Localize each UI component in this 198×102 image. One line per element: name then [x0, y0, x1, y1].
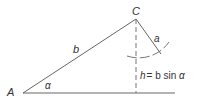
side-a-label: a	[154, 33, 160, 44]
vertex-c-label: C	[132, 5, 140, 17]
altitude-formula: h= b sin α	[140, 70, 185, 81]
altitude-h: h	[140, 70, 146, 81]
altitude-eq: = b sin	[147, 70, 180, 81]
radius-arc	[127, 42, 169, 58]
triangle-diagram: A C b a α h= b sin α	[0, 0, 198, 102]
altitude-alpha: α	[179, 70, 185, 81]
side-b	[23, 19, 136, 93]
vertex-a-label: A	[6, 86, 14, 98]
angle-alpha-label: α	[45, 80, 51, 91]
side-b-label: b	[73, 43, 79, 55]
